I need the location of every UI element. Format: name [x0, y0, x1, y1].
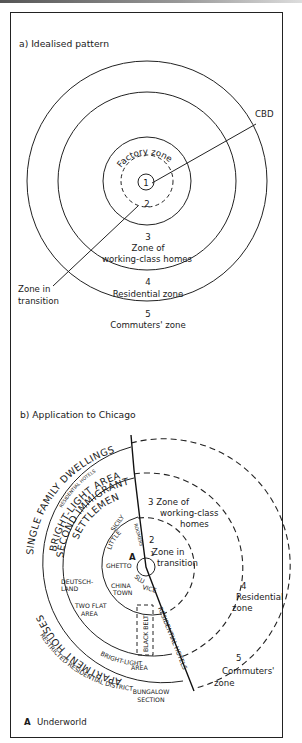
chicago-zone-5-label-1: Commuters' — [222, 666, 274, 676]
bungalow-label-2: SECTION — [137, 696, 165, 703]
zone-5-number: 5 — [145, 309, 150, 319]
panel-chicago: b) Application to Chicago SINGLE FAMILY … — [0, 0, 290, 703]
zone-2-number: 2 — [144, 199, 149, 209]
china-town-label-2: TOWN — [112, 589, 133, 596]
residential-hotels-side-label: RESIDENTIAL HOTELS — [157, 606, 189, 671]
chicago-zone-2-label-2: transition — [157, 558, 198, 568]
legend: A Underworld — [24, 717, 87, 727]
settlement-label: SETTLEMENT — [0, 0, 121, 541]
two-flat-area-label-2: AREA — [81, 610, 98, 617]
underworld-marker: A — [129, 552, 136, 562]
chicago-zone-4-label-2: zone — [232, 603, 253, 613]
black-belt-label: BLACK BELT — [142, 615, 149, 652]
chicago-zone-3-label-1: 3 Zone of — [148, 497, 190, 507]
zone-5-label: Commuters' zone — [110, 320, 186, 330]
cbd-callout: CBD — [255, 109, 274, 119]
chicago-zone-5-number: 5 — [236, 653, 241, 663]
zone-4-number: 4 — [145, 277, 150, 287]
panel-idealised-pattern: a) Idealised pattern 1 2 Factory zone 3 … — [18, 38, 274, 330]
chicago-zone-4-label-1: Residential — [236, 592, 283, 602]
chicago-zone-5-label-2: zone — [214, 678, 235, 688]
chicago-zone-2-number: 2 — [149, 535, 154, 545]
legend-text: Underworld — [37, 717, 87, 727]
deutschland-label-1: DEUTSCH- — [61, 578, 93, 585]
zone-3-number: 3 — [145, 232, 150, 242]
zone-3-label-2: working-class homes — [102, 254, 193, 264]
panel-a-title: a) Idealised pattern — [19, 38, 109, 49]
zone-5-dashed-arc — [131, 439, 290, 688]
zone-4-label: Residential zone — [113, 289, 184, 299]
burgess-concentric-zone-figure: a) Idealised pattern 1 2 Factory zone 3 … — [0, 0, 302, 743]
bungalow-label-1: BUNGALOW — [133, 688, 170, 695]
panel-b-title: b) Application to Chicago — [20, 409, 136, 420]
deutschland-label-2: LAND — [61, 585, 78, 592]
bright-light-bottom-label-2: AREA — [131, 664, 148, 671]
zone-1-number: 1 — [143, 178, 148, 188]
factory-zone-label: Factory zone — [115, 146, 175, 169]
ghetto-label: GHETTO — [106, 562, 132, 569]
chicago-zone-3-label-2: working-class — [160, 508, 219, 518]
zone-3-label-1: Zone of — [132, 243, 166, 253]
transition-callout-1: Zone in — [18, 284, 50, 294]
chicago-zone-3-label-3: homes — [180, 519, 209, 529]
chicago-zone-4-number: 4 — [241, 581, 246, 591]
china-town-label-1: CHINA — [111, 582, 131, 589]
two-flat-area-label-1: TWO FLAT — [74, 602, 107, 609]
vice-label: VICE — [142, 583, 158, 593]
chicago-zone-2-label-1: Zone in — [152, 547, 184, 557]
transition-callout-2: transition — [18, 296, 59, 306]
apartment-houses-label: APARTMENT HOUSES — [34, 613, 123, 688]
legend-key: A — [24, 717, 31, 727]
